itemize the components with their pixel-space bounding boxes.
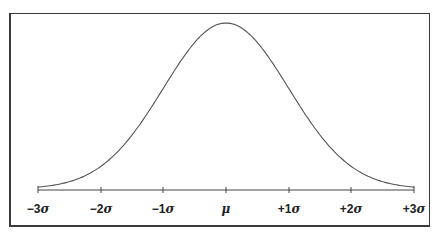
label-minus-2-sigma: −2σ <box>90 202 113 216</box>
label-plus-3-sigma: +3σ <box>403 202 426 216</box>
label-mu: μ <box>222 202 231 216</box>
label-minus-1-sigma: −1σ <box>152 202 175 216</box>
bell-curve-plot <box>0 0 441 240</box>
label-plus-2-sigma: +2σ <box>340 202 363 216</box>
label-plus-1-sigma: +1σ <box>278 202 301 216</box>
normal-curve <box>38 23 414 187</box>
label-minus-3-sigma: −3σ <box>27 202 50 216</box>
